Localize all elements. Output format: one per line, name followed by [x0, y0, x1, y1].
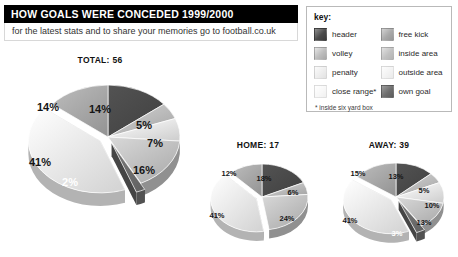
- pie-svg: [192, 150, 324, 250]
- pie-label-header: 18%: [256, 174, 271, 183]
- chart-canvas-total: [0, 67, 200, 215]
- title-block: HOW GOALS WERE CONCEDED 1999/2000 for th…: [4, 5, 298, 41]
- legend-swatch-icon: [314, 28, 327, 41]
- pie-label-penalty: 7%: [147, 137, 163, 149]
- pie-label-outside-area: 41%: [29, 156, 51, 168]
- legend-item-label: inside area: [399, 49, 438, 58]
- pie-label-outside-area: 41%: [209, 211, 224, 220]
- pie-slice-inside-area: [262, 194, 308, 229]
- chart-title-away: AWAY: 39: [320, 140, 458, 150]
- pie-label-header: 13%: [388, 172, 403, 181]
- pie-label-outside-area: 41%: [342, 216, 357, 225]
- page-subtitle: for the latest stats and to share your m…: [4, 23, 298, 41]
- pie-chart-home: HOME: 17 18%6%24%41%12%: [192, 140, 324, 257]
- legend-panel: key: headerfree kickvolleyinside areapen…: [306, 6, 452, 112]
- legend-swatch-icon: [381, 66, 394, 79]
- legend-item-label: penalty: [332, 68, 358, 77]
- pie-label-inside-area: 13%: [416, 218, 431, 227]
- chart-title-home: HOME: 17: [192, 140, 324, 150]
- pie-label-penalty: 10%: [424, 201, 439, 210]
- legend-item-label: header: [332, 30, 357, 39]
- legend-item-close-range: close range*: [314, 82, 379, 101]
- pie-label-free-kick: 15%: [350, 169, 365, 178]
- chart-title-total: TOTAL: 56: [0, 55, 200, 65]
- pie-label-own-goal: 2%: [62, 176, 78, 188]
- legend-item-penalty: penalty: [314, 63, 379, 82]
- legend-item-label: free kick: [399, 30, 429, 39]
- legend-item-label: outside area: [399, 68, 443, 77]
- pie-label-free-kick: 12%: [221, 169, 236, 178]
- legend-item-header: header: [314, 25, 379, 44]
- pie-label-inside-area: 24%: [279, 214, 294, 223]
- legend-footnote: * inside six yard box: [314, 104, 445, 111]
- pie-label-volley: 6%: [288, 188, 299, 197]
- legend-item-free-kick: free kick: [381, 25, 446, 44]
- legend-item-inside-area: inside area: [381, 44, 446, 63]
- legend-item-label: volley: [332, 49, 352, 58]
- pie-label-header: 14%: [89, 103, 111, 115]
- legend-swatch-icon: [314, 85, 327, 98]
- legend-swatch-icon: [314, 66, 327, 79]
- legend-item-own-goal: own goal: [381, 82, 446, 101]
- legend-item-label: own goal: [399, 87, 431, 96]
- legend-grid: headerfree kickvolleyinside areapenaltyo…: [314, 25, 445, 101]
- legend-item-volley: volley: [314, 44, 379, 63]
- pie-chart-away: AWAY: 39 13%5%10%13%3%41%15%: [320, 140, 458, 257]
- pie-label-inside-area: 16%: [133, 164, 155, 176]
- pie-chart-total: TOTAL: 56 14%5%7%16%2%41%14%: [0, 55, 200, 215]
- pie-svg: [0, 67, 200, 215]
- legend-swatch-icon: [381, 85, 394, 98]
- page-title: HOW GOALS WERE CONCEDED 1999/2000: [4, 5, 298, 23]
- pie-label-volley: 5%: [136, 119, 152, 131]
- pie-label-own-goal: 3%: [392, 229, 403, 238]
- pie-label-volley: 5%: [419, 186, 430, 195]
- legend-swatch-icon: [381, 28, 394, 41]
- chart-canvas-home: [192, 150, 324, 250]
- pie-label-free-kick: 14%: [37, 101, 59, 113]
- legend-item-outside-area: outside area: [381, 63, 446, 82]
- legend-title: key:: [314, 12, 445, 22]
- legend-swatch-icon: [314, 47, 327, 60]
- legend-item-label: close range*: [332, 87, 376, 96]
- legend-swatch-icon: [381, 47, 394, 60]
